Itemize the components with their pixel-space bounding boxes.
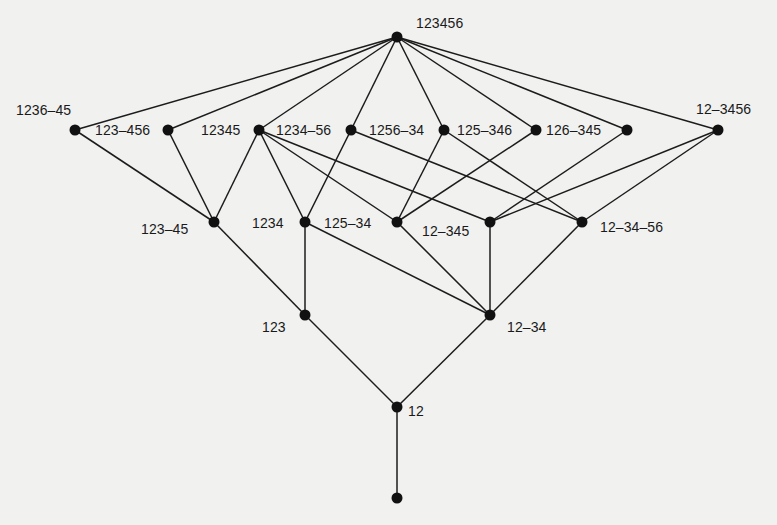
node-n126_345 — [622, 125, 633, 136]
diagram-graphics — [0, 0, 777, 525]
node-n123 — [300, 310, 311, 321]
edge-n123456-n1256_34 — [397, 37, 444, 130]
edge-n12345-n12_345 — [259, 130, 490, 222]
edge-layer — [75, 37, 718, 498]
edge-n1234_56-n1234 — [305, 130, 351, 222]
label-12-34: 12–34 — [507, 320, 546, 334]
label-125-34: 125–34 — [324, 216, 371, 230]
node-n123_45 — [209, 217, 220, 228]
node-n123_456 — [163, 125, 174, 136]
hasse-diagram: 123456 1236–45 123–456 12345 1234–56 125… — [0, 0, 777, 525]
node-n1236_45 — [70, 125, 81, 136]
label-1256-34: 1256–34 — [369, 123, 424, 137]
label-12: 12 — [408, 404, 424, 418]
label-12345: 12345 — [201, 123, 240, 137]
label-123-456: 123–456 — [95, 123, 150, 137]
edge-n125_346-n125_34 — [397, 130, 536, 222]
node-n12_345 — [485, 217, 496, 228]
label-126-345: 126–345 — [546, 123, 601, 137]
node-n1234 — [300, 217, 311, 228]
node-n12 — [392, 402, 403, 413]
node-n12_34_56 — [577, 217, 588, 228]
edge-n123456-n125_346 — [397, 37, 536, 130]
edge-n123456-n1234_56 — [351, 37, 397, 130]
edge-n123456-n12345 — [259, 37, 397, 130]
edge-n123456-n123_456 — [168, 37, 397, 130]
edge-n12345-n1234 — [259, 130, 305, 222]
edge-n123_456-n123_45 — [168, 130, 214, 222]
edge-n123_45-n123 — [214, 222, 305, 315]
label-12-345: 12–345 — [422, 224, 469, 238]
edge-n123456-n12_3456 — [397, 37, 718, 130]
edge-n12_34-n12 — [397, 315, 490, 407]
label-1234-56: 1234–56 — [276, 123, 331, 137]
node-n125_346 — [531, 125, 542, 136]
node-n1234_56 — [346, 125, 357, 136]
edge-n126_345-n12_345 — [490, 130, 627, 222]
label-123: 123 — [262, 320, 286, 334]
edge-n123456-n126_345 — [397, 37, 627, 130]
node-n_bottom — [392, 493, 403, 504]
label-12-3456: 12–3456 — [696, 102, 751, 116]
node-n125_34 — [392, 217, 403, 228]
label-123-45: 123–45 — [141, 222, 188, 236]
edge-n123-n12 — [305, 315, 397, 407]
node-n12345 — [254, 125, 265, 136]
label-125-346: 125–346 — [457, 123, 512, 137]
node-n12_3456 — [713, 125, 724, 136]
node-n1256_34 — [439, 125, 450, 136]
label-123456: 123456 — [416, 16, 463, 30]
edge-n12345-n123_45 — [214, 130, 259, 222]
edge-n1256_34-n125_34 — [397, 130, 444, 222]
label-1236-45: 1236–45 — [16, 103, 71, 117]
edge-n12_34_56-n12_34 — [490, 222, 582, 315]
label-12-34-56: 12–34–56 — [600, 220, 663, 234]
node-n123456 — [392, 32, 403, 43]
edge-n12_3456-n12_345 — [490, 130, 718, 222]
edge-n1236_45-n123_45 — [75, 130, 214, 222]
label-1234: 1234 — [252, 216, 284, 230]
edge-n123456-n1236_45 — [75, 37, 397, 130]
node-n12_34 — [485, 310, 496, 321]
